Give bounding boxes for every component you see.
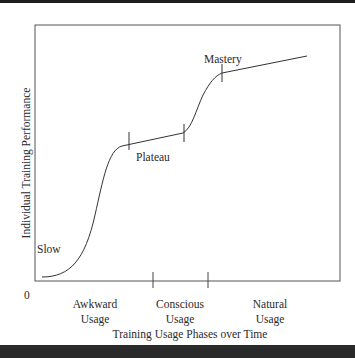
phase-conscious-line1: Conscious xyxy=(140,297,220,311)
mastery-label: Mastery xyxy=(204,52,242,66)
origin-label: 0 xyxy=(24,288,30,302)
phase-natural-line2: Usage xyxy=(230,312,310,326)
x-axis-title: Training Usage Phases over Time xyxy=(80,327,300,341)
y-axis-title: Individual Training Performance xyxy=(20,86,32,241)
phase-conscious-line2: Usage xyxy=(140,312,220,326)
learning-curve-line xyxy=(42,56,307,277)
bottom-border-bar xyxy=(0,345,355,358)
slow-label: Slow xyxy=(37,242,61,256)
plateau-label: Plateau xyxy=(136,150,170,164)
phase-awkward-line2: Usage xyxy=(55,312,135,326)
phase-awkward-line1: Awkward xyxy=(55,297,135,311)
plot-frame xyxy=(35,25,340,281)
phase-natural-line1: Natural xyxy=(230,297,310,311)
